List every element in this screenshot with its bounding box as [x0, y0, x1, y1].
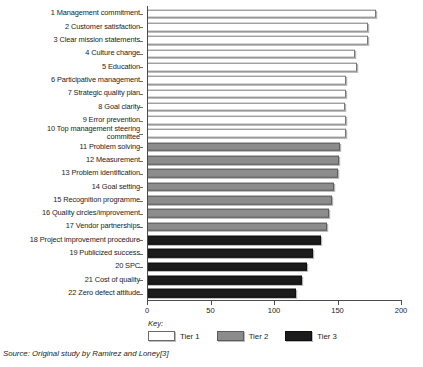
category-label: 17 Vendor partnerships: [0, 222, 147, 230]
bar-row: 11 Problem solving: [0, 140, 410, 153]
bar: [147, 63, 357, 72]
category-label: 3 Clear mission statements: [0, 36, 147, 44]
bar-track: [147, 180, 410, 193]
bar: [147, 289, 296, 298]
bar: [147, 116, 346, 125]
bar-track: [147, 20, 410, 33]
bar-row: 10 Top management steering committee: [0, 127, 410, 140]
legend-swatch: [217, 331, 244, 341]
category-label: 15 Recognition programme: [0, 196, 147, 204]
bar: [147, 182, 334, 191]
bar-track: [147, 47, 410, 60]
bar-row: 1 Management commitment: [0, 7, 410, 20]
x-tick-mark: [338, 300, 339, 305]
category-label: 4 Culture change: [0, 49, 147, 57]
bar-row: 19 Publicized success: [0, 247, 410, 260]
bar-row: 14 Goal setting: [0, 180, 410, 193]
bar-track: [147, 193, 410, 206]
bar-track: [147, 220, 410, 233]
legend-item: Tier 2: [217, 331, 269, 341]
bar-track: [147, 167, 410, 180]
source-note: Source: Original study by Ramirez and Lo…: [3, 349, 169, 358]
bar-row: 2 Customer satisfaction: [0, 20, 410, 33]
x-tick-label: 200: [395, 306, 408, 315]
y-axis-line: [147, 6, 148, 301]
category-label: 14 Goal setting: [0, 183, 147, 191]
bar: [147, 9, 376, 18]
category-label: 12 Measurement: [0, 156, 147, 164]
horizontal-bar-chart: 1 Management commitment2 Customer satisf…: [0, 0, 423, 367]
bar-track: [147, 287, 410, 300]
bar-track: [147, 273, 410, 286]
bar-row: 18 Project improvement procedure: [0, 233, 410, 246]
x-tick-mark: [211, 300, 212, 305]
bar-row: 16 Quality circles/improvement: [0, 207, 410, 220]
bar-track: [147, 260, 410, 273]
bar-track: [147, 153, 410, 166]
bar-track: [147, 7, 410, 20]
legend-item: Tier 3: [285, 331, 337, 341]
bar-row: 12 Measurement: [0, 153, 410, 166]
bar: [147, 156, 339, 165]
bar-track: [147, 74, 410, 87]
bar: [147, 169, 338, 178]
category-label: 22 Zero defect attitude: [0, 289, 147, 297]
bar: [147, 222, 327, 231]
plot-area: 1 Management commitment2 Customer satisf…: [0, 0, 423, 308]
legend-title: Key:: [148, 319, 408, 328]
bar: [147, 103, 345, 112]
bar-row: 6 Participative management: [0, 74, 410, 87]
bar-track: [147, 127, 410, 140]
bar-track: [147, 87, 410, 100]
x-tick-label: 50: [206, 306, 214, 315]
bar-track: [147, 247, 410, 260]
bar: [147, 249, 313, 258]
bar-row: 4 Culture change: [0, 47, 410, 60]
category-label: 11 Problem solving: [0, 143, 147, 151]
category-label: 20 SPC: [0, 262, 147, 270]
x-tick-mark: [274, 300, 275, 305]
bar-row: 21 Cost of quality: [0, 273, 410, 286]
category-label: 19 Publicized success: [0, 249, 147, 257]
bar-track: [147, 34, 410, 47]
bar-row: 22 Zero defect attitude: [0, 287, 410, 300]
category-label: 2 Customer satisfaction: [0, 23, 147, 31]
legend-item: Tier 1: [148, 331, 200, 341]
bar-track: [147, 207, 410, 220]
bar-track: [147, 100, 410, 113]
category-label: 21 Cost of quality: [0, 276, 147, 284]
legend-items: Tier 1Tier 2Tier 3: [148, 331, 408, 341]
x-tick-label: 100: [268, 306, 281, 315]
legend-swatch: [148, 331, 175, 341]
bar: [147, 23, 368, 32]
bar: [147, 262, 307, 271]
bar-track: [147, 114, 410, 127]
category-label: 13 Problem identification: [0, 169, 147, 177]
category-label: 18 Project improvement procedure: [0, 236, 147, 244]
bar: [147, 49, 355, 58]
legend-swatch: [285, 331, 312, 341]
x-tick-mark: [147, 300, 148, 305]
category-label: 7 Strategic quality plan: [0, 89, 147, 97]
bar-row: 20 SPC: [0, 260, 410, 273]
bar: [147, 36, 368, 45]
bar: [147, 236, 321, 245]
bar-row: 8 Goal clarity: [0, 100, 410, 113]
bar-track: [147, 60, 410, 73]
category-label: 1 Management commitment: [0, 9, 147, 17]
bar-row: 5 Education: [0, 60, 410, 73]
category-label: 6 Participative management: [0, 76, 147, 84]
bar-row: 3 Clear mission statements: [0, 34, 410, 47]
bar-track: [147, 140, 410, 153]
bar: [147, 142, 340, 151]
bar-row: 15 Recognition programme: [0, 193, 410, 206]
bar-row: 13 Problem identification: [0, 167, 410, 180]
legend-label: Tier 2: [249, 332, 269, 341]
bar: [147, 276, 302, 285]
category-label: 5 Education: [0, 63, 147, 71]
legend-label: Tier 3: [317, 332, 337, 341]
bar: [147, 209, 329, 218]
x-tick-label: 150: [331, 306, 344, 315]
bar: [147, 196, 332, 205]
bar-track: [147, 233, 410, 246]
